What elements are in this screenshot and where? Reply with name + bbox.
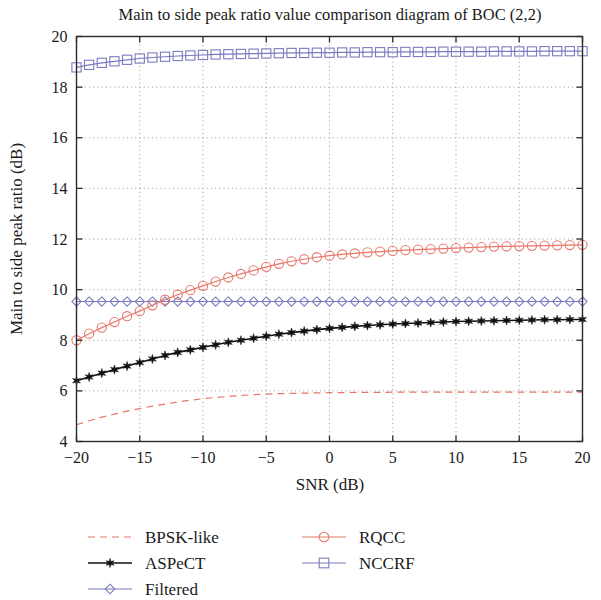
legend-item-nccrf[interactable]: NCCRF xyxy=(302,554,415,573)
y-tick-label: 20 xyxy=(52,28,68,45)
legend-label: BPSK-like xyxy=(145,528,219,547)
legend-label: RQCC xyxy=(359,528,405,547)
x-tick-label: −20 xyxy=(64,449,89,466)
x-tick-label: −15 xyxy=(127,449,152,466)
page-title: Main to side peak ratio value comparison… xyxy=(119,5,542,24)
legend-label: NCCRF xyxy=(359,554,415,573)
legend-item-bpsk-like[interactable]: BPSK-like xyxy=(88,528,219,547)
legend-item-filtered[interactable]: Filtered xyxy=(88,580,198,599)
x-tick-label: 5 xyxy=(389,449,397,466)
x-tick-label: 15 xyxy=(511,449,527,466)
y-tick-label: 18 xyxy=(52,79,68,96)
x-axis-label: SNR (dB) xyxy=(296,475,364,494)
y-tick-label: 6 xyxy=(60,382,68,399)
y-axis-label: Main to side peak ratio (dB) xyxy=(7,143,26,335)
legend-label: ASPeCT xyxy=(145,554,206,573)
x-tick-label: −5 xyxy=(258,449,275,466)
y-tick-label: 14 xyxy=(52,180,68,197)
y-tick-label: 8 xyxy=(60,332,68,349)
series-line xyxy=(77,392,583,425)
x-axis-ticks: −20−15−10−505101520 xyxy=(64,37,591,466)
x-tick-label: 0 xyxy=(326,449,334,466)
series-bpsk-like xyxy=(77,392,583,425)
x-tick-label: 20 xyxy=(575,449,591,466)
x-tick-label: −10 xyxy=(190,449,215,466)
chart-figure: Main to side peak ratio value comparison… xyxy=(0,0,601,600)
series-aspect xyxy=(73,315,587,385)
y-tick-label: 12 xyxy=(52,231,68,248)
gridlines xyxy=(77,37,583,442)
legend-label: Filtered xyxy=(145,580,198,599)
legend-item-rqcc[interactable]: RQCC xyxy=(302,528,405,547)
series-layer xyxy=(72,47,587,425)
y-tick-label: 16 xyxy=(52,129,68,146)
y-tick-label: 10 xyxy=(52,281,68,298)
y-tick-label: 4 xyxy=(60,433,68,450)
x-tick-label: 10 xyxy=(448,449,464,466)
series-nccrf xyxy=(72,47,587,72)
chart-legend: BPSK-likeASPeCTFilteredRQCCNCCRF xyxy=(88,528,415,599)
legend-item-aspect[interactable]: ASPeCT xyxy=(88,554,206,573)
